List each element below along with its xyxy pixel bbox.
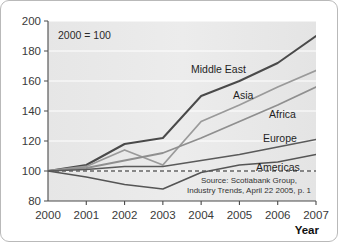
y-tick-label: 80 [28,195,41,207]
x-axis-ticks: 20002001200220032004200520062007 [35,201,329,221]
x-tick-label: 2006 [265,209,291,221]
source-line-2: Industry Trends, April 22 2005, p. 1 [187,186,312,195]
index-annotation: 2000 = 100 [58,29,111,41]
series-label-europe: Europe [263,132,297,144]
x-tick-label: 2004 [188,209,214,221]
series-label-middle-east: Middle East [191,63,246,75]
y-tick-label: 100 [22,165,41,177]
y-tick-label: 160 [22,75,41,87]
source-line-1: Source: Scotiabank Group, [201,176,297,185]
series-label-asia: Asia [233,89,254,101]
series-label-americas: Americas [256,161,300,173]
line-chart: 80100120140160180200 2000200120022003200… [1,1,338,242]
y-tick-label: 120 [22,135,41,147]
y-tick-label: 200 [22,15,41,27]
x-axis-title: Year [295,224,320,236]
x-tick-label: 2005 [227,209,253,221]
y-tick-label: 180 [22,45,41,57]
x-tick-label: 2003 [150,209,176,221]
x-tick-label: 2000 [35,209,61,221]
y-axis-ticks: 80100120140160180200 [22,15,48,207]
x-tick-label: 2001 [73,209,99,221]
x-tick-label: 2002 [112,209,138,221]
y-tick-label: 140 [22,105,41,117]
x-tick-label: 2007 [303,209,329,221]
chart-figure: 80100120140160180200 2000200120022003200… [0,0,338,242]
series-label-africa: Africa [269,108,296,120]
